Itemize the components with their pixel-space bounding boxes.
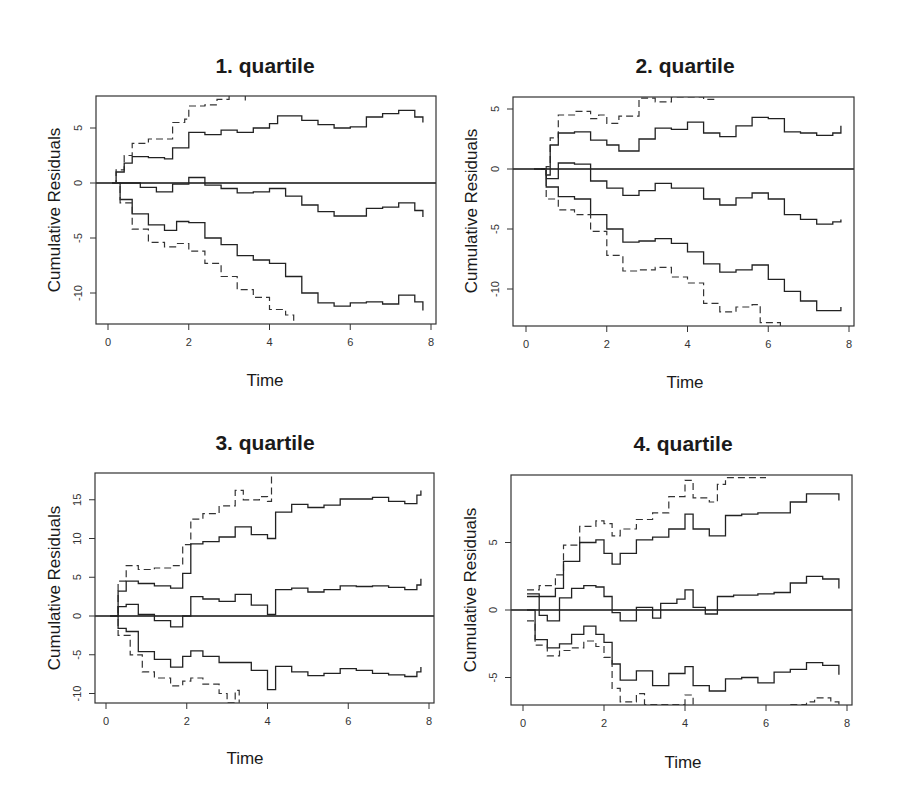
residual-line [534, 169, 841, 311]
y-axis-label: Cumulative Residuals [462, 129, 481, 293]
plot-area: 0246850-5 [487, 475, 852, 729]
x-tick-label: 4 [266, 336, 272, 348]
x-tick-label: 6 [347, 336, 353, 348]
panel-3-quartile: 3. quartile Time Cumulative Residuals 02… [45, 431, 434, 768]
x-tick-label: 2 [601, 717, 607, 729]
y-tick-label: -5 [487, 673, 499, 683]
y-tick-label: -10 [72, 285, 84, 301]
panel-title: 3. quartile [215, 431, 314, 454]
x-tick-label: 6 [763, 717, 769, 729]
residual-line [110, 490, 421, 616]
confidence-band-line [112, 183, 294, 324]
plot-area: 02468151050-5-10 [71, 473, 434, 727]
y-axis-label: Cumulative Residuals [45, 506, 64, 670]
x-tick-label: 8 [428, 336, 434, 348]
x-tick-label: 2 [186, 336, 192, 348]
plot-frame [511, 475, 852, 705]
x-tick-label: 0 [523, 338, 529, 350]
series-group [534, 97, 841, 330]
plot-area: 0246850-5-10 [489, 97, 854, 350]
series-group [527, 478, 839, 705]
y-tick-label: -5 [489, 224, 501, 234]
y-tick-label: -10 [71, 686, 83, 702]
x-tick-label: 8 [846, 338, 852, 350]
y-tick-label: 5 [489, 106, 501, 112]
plot-frame [95, 473, 434, 703]
x-tick-label: 4 [682, 717, 688, 729]
x-tick-label: 6 [765, 338, 771, 350]
x-tick-label: 8 [844, 717, 850, 729]
x-tick-label: 0 [520, 717, 526, 729]
plot-frame [513, 97, 854, 326]
figure: 1. quartile Time Cumulative Residuals 02… [0, 0, 900, 810]
y-tick-label: 5 [487, 539, 499, 545]
y-tick-label: 5 [72, 125, 84, 131]
residual-line [527, 576, 839, 621]
y-tick-label: 0 [487, 607, 499, 613]
x-tick-label: 2 [604, 338, 610, 350]
y-tick-label: -5 [71, 650, 83, 660]
series-group [110, 474, 421, 703]
y-tick-label: 0 [72, 180, 84, 186]
residual-line [110, 616, 421, 690]
residual-line [112, 110, 423, 183]
confidence-band-line [534, 169, 780, 330]
series-group [112, 95, 423, 324]
residual-line [112, 183, 423, 311]
panel-2-quartile: 2. quartile Time Cumulative Residuals 02… [462, 54, 854, 392]
y-tick-label: 15 [71, 494, 83, 506]
plot-frame [96, 96, 436, 324]
residual-line [527, 610, 839, 691]
x-axis-label: Time [226, 749, 263, 768]
y-tick-label: -5 [72, 233, 84, 243]
y-tick-label: 0 [489, 166, 501, 172]
y-tick-label: -10 [489, 281, 501, 297]
x-axis-label: Time [664, 753, 701, 772]
confidence-band-line [527, 621, 693, 705]
x-tick-label: 2 [184, 715, 190, 727]
y-tick-label: 10 [71, 532, 83, 544]
x-axis-label: Time [666, 373, 703, 392]
x-tick-label: 8 [426, 715, 432, 727]
residual-line [534, 117, 841, 175]
confidence-band-line [790, 698, 839, 705]
x-tick-label: 0 [105, 336, 111, 348]
x-tick-label: 4 [684, 338, 690, 350]
y-axis-label: Cumulative Residuals [45, 128, 64, 292]
panel-title: 4. quartile [633, 432, 732, 455]
x-tick-label: 4 [264, 715, 270, 727]
x-tick-label: 6 [345, 715, 351, 727]
y-tick-label: 5 [71, 574, 83, 580]
confidence-band-line [112, 95, 245, 183]
y-axis-label: Cumulative Residuals [461, 508, 480, 672]
plot-area: 0246850-5-10 [72, 95, 436, 348]
x-tick-label: 0 [103, 715, 109, 727]
panel-title: 2. quartile [635, 54, 734, 77]
panel-4-quartile: 4. quartile Time Cumulative Residuals 02… [461, 432, 852, 772]
figure-canvas: 1. quartile Time Cumulative Residuals 02… [0, 0, 900, 810]
x-axis-label: Time [246, 371, 283, 390]
panel-title: 1. quartile [215, 54, 314, 77]
panel-1-quartile: 1. quartile Time Cumulative Residuals 02… [45, 54, 436, 390]
y-tick-label: 0 [71, 613, 83, 619]
confidence-band-line [110, 616, 239, 703]
